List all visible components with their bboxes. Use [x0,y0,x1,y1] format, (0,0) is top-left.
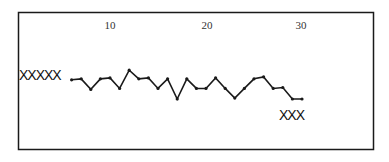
data-point [291,97,294,100]
data-series [70,69,304,101]
left-x-marks: XXXXX [19,67,62,83]
data-point [281,86,284,89]
data-point [185,77,188,80]
data-point [108,76,111,79]
data-point [243,87,246,90]
data-point [166,77,169,80]
data-point [300,97,303,100]
x-tick-10: 10 [105,19,117,31]
data-point [176,97,179,100]
x-tick-20: 20 [202,19,214,31]
data-point [214,76,217,79]
data-point [118,87,121,90]
data-point [137,77,140,80]
data-point [233,96,236,99]
data-point [80,77,83,80]
data-point [252,77,255,80]
line-chart: 10 20 30 XXXXX XXX [0,0,389,162]
data-point [89,88,92,91]
data-point [262,75,265,78]
data-point [195,87,198,90]
right-x-marks: XXX [279,107,306,123]
data-point [224,87,227,90]
data-point [147,76,150,79]
data-point [156,87,159,90]
x-tick-30: 30 [296,19,308,31]
data-point [272,87,275,90]
data-point [128,69,131,72]
series-line [72,70,302,99]
data-point [99,77,102,80]
data-point [70,78,73,81]
data-point [204,87,207,90]
